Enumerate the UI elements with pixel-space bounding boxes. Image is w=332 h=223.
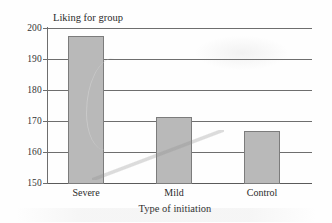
gridline	[48, 28, 312, 29]
y-tick-label: 160	[0, 147, 42, 157]
x-axis-title: Type of initiation	[139, 203, 212, 215]
bar-severe	[68, 36, 104, 184]
bar-control	[244, 131, 280, 184]
x-tick-label-mild: Mild	[134, 187, 214, 199]
y-axis-title: Liking for group	[52, 12, 126, 24]
y-tick-label: 180	[0, 85, 42, 95]
bar-chart-figure: Liking for group 200190180170160150 Seve…	[0, 0, 332, 223]
plot-area	[48, 28, 312, 183]
x-tick-label-control: Control	[222, 187, 302, 199]
y-tick-label: 170	[0, 116, 42, 126]
y-tick-label: 200	[0, 23, 42, 33]
bar-mild	[156, 117, 192, 184]
x-axis-title-row: Type of initiation	[0, 203, 332, 215]
y-tick-label: 190	[0, 54, 42, 64]
x-tick-label-severe: Severe	[46, 187, 126, 199]
y-tick-label: 150	[0, 178, 42, 188]
